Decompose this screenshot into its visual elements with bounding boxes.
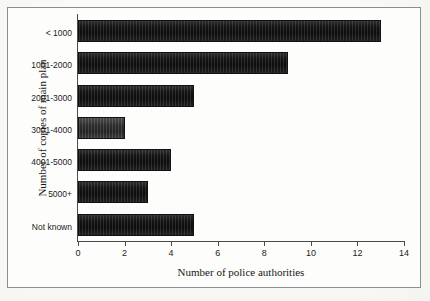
xtick-label-4: 4: [156, 248, 186, 258]
bar-row: [78, 144, 404, 176]
xtick-mark-0: [78, 242, 79, 246]
xtick-mark-10: [311, 242, 312, 246]
x-axis-line: [77, 241, 405, 242]
bar-row: [78, 176, 404, 208]
bar-2001-3000: [78, 85, 194, 107]
xtick-label-6: 6: [203, 248, 233, 258]
xtick-mark-12: [357, 242, 358, 246]
xtick-label-12: 12: [342, 248, 372, 258]
bar-lt-1000: [78, 20, 381, 42]
xtick-label-0: 0: [63, 248, 93, 258]
bar-5000-plus: [78, 181, 148, 203]
bar-3001-4000: [78, 117, 125, 139]
bar-1001-2000: [78, 52, 288, 74]
bar-4001-5000: [78, 149, 171, 171]
bar-not-known: [78, 214, 194, 236]
bar-row: [78, 112, 404, 144]
xtick-mark-2: [125, 242, 126, 246]
bar-row: [78, 47, 404, 79]
xtick-label-2: 2: [110, 248, 140, 258]
bar-row: [78, 15, 404, 47]
xtick-label-10: 10: [296, 248, 326, 258]
xtick-label-14: 14: [389, 248, 419, 258]
bar-row: [78, 209, 404, 241]
xtick-mark-14: [404, 242, 405, 246]
xtick-label-8: 8: [249, 248, 279, 258]
xtick-mark-4: [171, 242, 172, 246]
figure-container: < 1000 1001-2000 2001-3000 3001-4000 400…: [0, 0, 430, 301]
y-axis-title: Number of copies of main plan: [36, 8, 48, 248]
x-axis-title: Number of police authorities: [78, 266, 404, 278]
bar-row: [78, 80, 404, 112]
xtick-mark-6: [218, 242, 219, 246]
plot-area: [78, 15, 404, 241]
xtick-mark-8: [264, 242, 265, 246]
